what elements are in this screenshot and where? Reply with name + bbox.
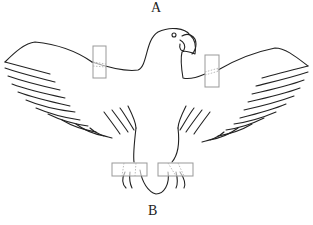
right-wing-top: [218, 48, 308, 70]
left-wing-top: [5, 42, 92, 62]
left-wing-band: [93, 46, 106, 78]
right-wing-band: [205, 55, 219, 87]
right-leg: [172, 128, 179, 162]
right-foot-band: [158, 163, 193, 176]
body-outline: [92, 28, 205, 78]
eye: [172, 33, 176, 37]
parrot-diagram: [0, 0, 313, 225]
left-leg: [134, 128, 136, 162]
left-foot-band: [112, 163, 147, 176]
